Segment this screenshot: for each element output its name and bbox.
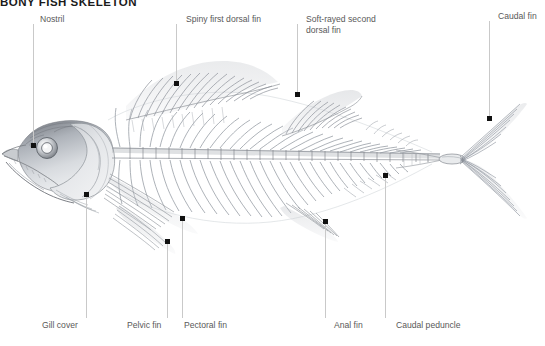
fish-skeleton-illustration [0,0,545,346]
leader-line-pectoral-fin [182,218,183,318]
soft-rayed-second-dorsal-fin [282,90,362,136]
callout-label-caudal-fin: Caudal fin [498,11,537,22]
vertebral-column [112,147,440,162]
leader-line-gill-cover [86,194,87,318]
callout-label-pelvic-fin: Pelvic fin [127,320,161,331]
leader-dot-pelvic-fin [165,239,170,244]
snout [2,149,18,161]
spiny-first-dorsal-fin [126,61,280,132]
leader-dot-caudal-fin [487,116,492,121]
leader-line-caudal-fin [489,21,490,118]
leader-dot-nostril [31,143,36,148]
leader-dot-anal-fin [323,219,328,224]
leader-line-caudal-peduncle [385,175,386,318]
callout-label-caudal-peduncle: Caudal peduncle [396,320,461,331]
leader-line-anal-fin [325,221,326,318]
leader-dot-spiny-first-dorsal-fin [174,81,179,86]
leader-line-pelvic-fin [167,241,168,318]
caudal-fin [460,103,527,219]
diagram-page: BONY FISH SKELETON [0,0,545,346]
callout-label-soft-rayed-second-dorsal-fin: Soft-rayed second dorsal fin [306,14,376,35]
leader-line-soft-rayed-second-dorsal-fin [297,24,298,94]
callout-label-gill-cover: Gill cover [42,320,78,331]
leader-dot-caudal-peduncle [383,173,388,178]
leader-dot-soft-rayed-second-dorsal-fin [295,92,300,97]
dorsal-finlets [366,121,418,146]
leader-line-nostril [33,24,34,145]
leader-line-spiny-first-dorsal-fin [176,24,177,83]
leader-dot-pectoral-fin [180,216,185,221]
callout-label-nostril: Nostril [40,14,64,25]
leader-dot-gill-cover [84,192,89,197]
callout-label-spiny-first-dorsal-fin: Spiny first dorsal fin [186,14,261,25]
caudal-lower-rays [460,158,520,216]
pectoral-fin [104,174,198,234]
callout-label-pectoral-fin: Pectoral fin [184,320,227,331]
callout-label-anal-fin: Anal fin [334,320,363,331]
